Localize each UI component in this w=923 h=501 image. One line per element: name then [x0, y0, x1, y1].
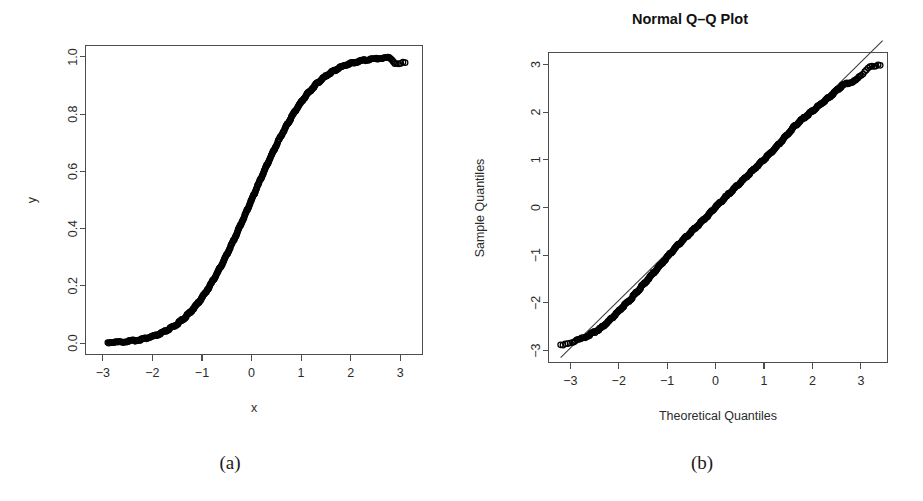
y-tick-label: −1 [529, 248, 543, 262]
panel-a-y-axis-label: y [25, 196, 39, 203]
panel-a-x-axis-label: x [251, 401, 258, 415]
panel-b-x-axis-label: Theoretical Quantiles [659, 409, 777, 423]
caption-b: (b) [672, 452, 732, 474]
x-tick-label: 2 [347, 366, 354, 380]
y-tick-label: 2 [529, 109, 543, 116]
panel-b-qq-plot: Normal Q–Q Plot −3−2−10123 −3−2−10123 Th… [460, 0, 923, 440]
y-tick-label: 0.8 [66, 105, 80, 122]
panel-b-svg: Normal Q–Q Plot −3−2−10123 −3−2−10123 Th… [460, 0, 923, 440]
y-tick-label: 0.4 [66, 220, 80, 237]
panel-a-plot-area: −3−2−10123 0.00.20.40.60.81.0 x y [0, 0, 460, 440]
y-tick-label: −2 [529, 296, 543, 310]
x-tick-label: 0 [712, 374, 719, 388]
y-tick-label: 0.0 [66, 334, 80, 351]
panel-b-y-axis-label: Sample Quantiles [473, 159, 487, 258]
x-tick-label: −1 [660, 374, 674, 388]
caption-a: (a) [200, 452, 260, 474]
y-tick-label: 3 [529, 61, 543, 68]
x-tick-label: 2 [809, 374, 816, 388]
panel-a-svg: −3−2−10123 0.00.20.40.60.81.0 x y [0, 0, 460, 440]
x-tick-label: 1 [298, 366, 305, 380]
y-tick-label: 1.0 [66, 48, 80, 65]
x-tick-label: 1 [761, 374, 768, 388]
y-tick-label: 0 [529, 204, 543, 211]
y-tick-label: 0.6 [66, 163, 80, 180]
panel-a-cdf-plot: −3−2−10123 0.00.20.40.60.81.0 x y [0, 0, 460, 440]
x-tick-label: −3 [96, 366, 110, 380]
panel-b-title: Normal Q–Q Plot [632, 11, 748, 27]
figure-container: −3−2−10123 0.00.20.40.60.81.0 x y Normal… [0, 0, 923, 501]
y-tick-label: 1 [529, 156, 543, 163]
x-tick-label: −2 [145, 366, 159, 380]
x-tick-label: 0 [248, 366, 255, 380]
y-tick-label: 0.2 [66, 277, 80, 294]
x-tick-label: −2 [612, 374, 626, 388]
x-tick-label: −1 [195, 366, 209, 380]
x-tick-label: 3 [857, 374, 864, 388]
x-tick-label: −3 [563, 374, 577, 388]
y-tick-label: −3 [529, 343, 543, 357]
panel-b-plot-area: Normal Q–Q Plot −3−2−10123 −3−2−10123 Th… [460, 0, 923, 440]
x-tick-label: 3 [397, 366, 404, 380]
